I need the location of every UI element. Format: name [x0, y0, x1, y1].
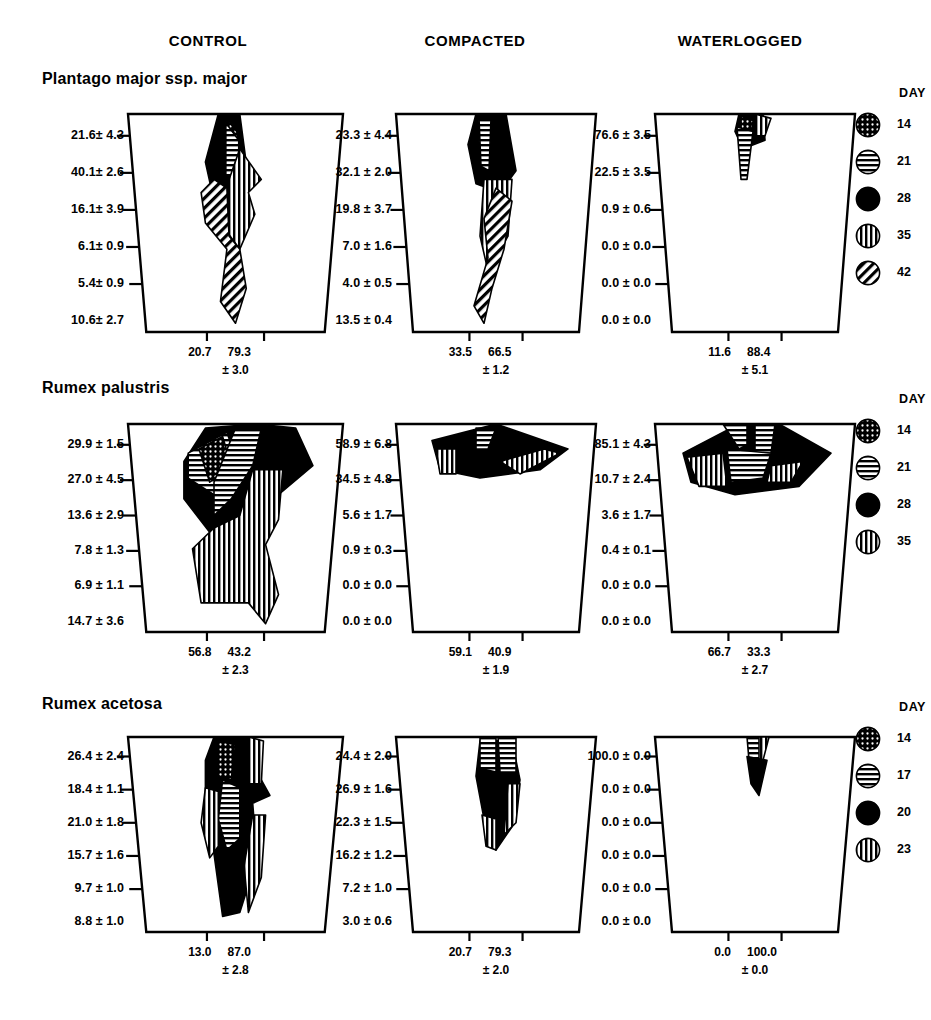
depth-value-column: 23.3 ± 4.432.1 ± 2.019.8 ± 3.77.0 ± 1.64…	[274, 114, 392, 332]
bottom-left-value: 33.5	[410, 345, 472, 359]
depth-value-label: 21.0 ± 1.8	[67, 815, 124, 829]
bottom-sd-value: ± 0.0	[703, 963, 807, 977]
legend-swatch-horizontal-icon	[855, 763, 881, 789]
legend-swatch-horizontal-icon	[855, 455, 881, 481]
legend-swatch-vertical-icon	[855, 529, 881, 555]
legend: DAY14172023	[855, 700, 931, 880]
bottom-left-value: 11.6	[669, 345, 731, 359]
column-header-control: CONTROL	[118, 32, 298, 49]
depth-value-label: 0.0 ± 0.0	[602, 614, 651, 628]
legend-swatch-dotted-icon	[855, 418, 881, 444]
legend-label: 17	[897, 768, 911, 782]
depth-value-label: 21.6± 4.3	[71, 128, 124, 142]
bottom-left-value: 13.0	[150, 945, 212, 959]
depth-value-label: 10.6± 2.7	[71, 313, 124, 327]
species-title-rumex-palustris: Rumex palustris	[42, 379, 169, 397]
depth-value-label: 0.0 ± 0.0	[602, 815, 651, 829]
legend-swatch-dotted-icon	[855, 112, 881, 138]
depth-value-label: 85.1 ± 4.3	[594, 437, 651, 451]
depth-value-label: 5.4± 0.9	[78, 276, 124, 290]
depth-value-label: 0.9 ± 0.3	[343, 543, 392, 557]
root-band-horizontal	[479, 118, 491, 170]
depth-value-label: 0.9 ± 0.6	[602, 202, 651, 216]
legend: DAY14212835	[855, 392, 931, 572]
bottom-left-value: 66.7	[669, 645, 731, 659]
depth-value-label: 7.0 ± 1.6	[343, 239, 392, 253]
bottom-sd-value: ± 3.0	[184, 363, 288, 377]
depth-value-label: 29.9 ± 1.5	[67, 437, 124, 451]
root-band-vertical	[248, 737, 263, 784]
root-profile-panel	[655, 114, 855, 332]
legend-title-day: DAY	[899, 700, 926, 714]
legend-swatch-vertical-icon	[855, 837, 881, 863]
depth-value-label: 76.6 ± 3.5	[594, 128, 651, 142]
legend-label: 28	[897, 191, 911, 205]
legend-swatch-solid-icon	[855, 492, 881, 518]
bottom-right-value: 33.3	[747, 645, 811, 659]
depth-value-label: 58.9 ± 6.8	[335, 437, 392, 451]
depth-value-label: 40.1± 2.6	[71, 165, 124, 179]
depth-value-label: 4.0 ± 0.5	[343, 276, 392, 290]
legend-label: 42	[897, 265, 911, 279]
depth-value-label: 27.0 ± 4.5	[67, 472, 124, 486]
depth-value-label: 0.0 ± 0.0	[602, 782, 651, 796]
bottom-right-value: 79.3	[228, 345, 292, 359]
depth-value-label: 26.4 ± 2.4	[67, 749, 124, 763]
depth-value-label: 34.5 ± 4.8	[335, 472, 392, 486]
depth-value-label: 19.8 ± 3.7	[335, 202, 392, 216]
legend-label: 20	[897, 805, 911, 819]
bottom-left-value: 20.7	[410, 945, 472, 959]
bottom-left-value: 0.0	[669, 945, 731, 959]
depth-value-label: 14.7 ± 3.6	[67, 614, 124, 628]
legend-swatch-horizontal-icon	[855, 149, 881, 175]
depth-value-label: 16.1± 3.9	[71, 202, 124, 216]
legend-title-day: DAY	[899, 86, 926, 100]
legend-label: 35	[897, 534, 911, 548]
root-profile-panel	[655, 424, 855, 632]
bottom-right-value: 79.3	[488, 945, 552, 959]
bottom-sd-value: ± 1.9	[444, 663, 548, 677]
depth-value-label: 9.7 ± 1.0	[75, 881, 124, 895]
depth-value-label: 6.1± 0.9	[78, 239, 124, 253]
root-profile-panel	[655, 737, 855, 932]
depth-value-column: 21.6± 4.340.1± 2.616.1± 3.96.1± 0.95.4± …	[6, 114, 124, 332]
root-band-horizontal	[498, 737, 516, 772]
depth-value-label: 18.4 ± 1.1	[67, 782, 124, 796]
panel-outline	[655, 114, 855, 332]
depth-value-column: 76.6 ± 3.522.5 ± 3.50.9 ± 0.60.0 ± 0.00.…	[533, 114, 651, 332]
root-band-horizontal	[480, 737, 496, 772]
depth-value-label: 13.5 ± 0.4	[335, 313, 392, 327]
legend-swatch-diagonal-icon	[855, 260, 881, 286]
depth-value-label: 22.3 ± 1.5	[335, 815, 392, 829]
depth-value-label: 0.0 ± 0.0	[602, 313, 651, 327]
depth-value-label: 24.4 ± 2.0	[335, 749, 392, 763]
depth-value-label: 0.4 ± 0.1	[602, 543, 651, 557]
depth-value-label: 3.6 ± 1.7	[602, 508, 651, 522]
legend-label: 28	[897, 497, 911, 511]
legend-label: 23	[897, 842, 911, 856]
depth-value-label: 7.8 ± 1.3	[75, 543, 124, 557]
bottom-sd-value: ± 5.1	[703, 363, 807, 377]
depth-value-label: 7.2 ± 1.0	[343, 881, 392, 895]
depth-value-label: 15.7 ± 1.6	[67, 848, 124, 862]
depth-value-label: 16.2 ± 1.2	[335, 848, 392, 862]
depth-value-label: 10.7 ± 2.4	[594, 472, 651, 486]
legend-swatch-solid-icon	[855, 800, 881, 826]
bottom-sd-value: ± 2.0	[444, 963, 548, 977]
legend-label: 14	[897, 117, 911, 131]
depth-value-label: 23.3 ± 4.4	[335, 128, 392, 142]
depth-value-label: 3.0 ± 0.6	[343, 914, 392, 928]
depth-value-column: 58.9 ± 6.834.5 ± 4.85.6 ± 1.70.9 ± 0.30.…	[274, 424, 392, 632]
bottom-right-value: 43.2	[228, 645, 292, 659]
bottom-right-value: 87.0	[228, 945, 292, 959]
depth-value-column: 85.1 ± 4.310.7 ± 2.43.6 ± 1.70.4 ± 0.10.…	[533, 424, 651, 632]
depth-value-label: 13.6 ± 2.9	[67, 508, 124, 522]
depth-value-label: 0.0 ± 0.0	[602, 881, 651, 895]
legend-swatch-solid-icon	[855, 186, 881, 212]
legend: DAY1421283542	[855, 86, 931, 266]
bottom-right-value: 88.4	[747, 345, 811, 359]
bottom-right-value: 100.0	[747, 945, 811, 959]
depth-value-column: 100.0 ± 0.00.0 ± 0.00.0 ± 0.00.0 ± 0.00.…	[533, 737, 651, 932]
depth-value-label: 0.0 ± 0.0	[602, 276, 651, 290]
legend-swatch-vertical-icon	[855, 223, 881, 249]
